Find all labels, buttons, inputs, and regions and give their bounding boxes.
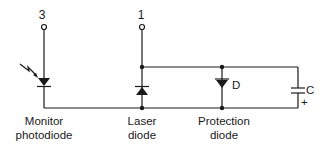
protection-diode-label-line1: Protection [198, 115, 250, 127]
laser-diode-label-line1: Laser [128, 115, 157, 127]
protection-diode: D [215, 65, 240, 110]
light-incident-arrow-icon [20, 64, 38, 78]
monitor-photodiode-label-line2: photodiode [16, 129, 73, 141]
monitor-photodiode-label-line1: Monitor [25, 115, 64, 127]
pin-3-label: 3 [39, 8, 46, 22]
protection-diode-symbol-label: D [232, 79, 240, 91]
monitor-photodiode [20, 30, 51, 108]
photodiode-triangle-icon [38, 78, 50, 86]
junction-dot [220, 106, 224, 110]
capacitor-polarity-label: + [301, 96, 308, 108]
protection-diode-triangle-icon [216, 80, 228, 88]
laser-diode-label-line2: diode [128, 129, 156, 141]
junction-dot [140, 106, 144, 110]
pin-3-terminal [42, 25, 47, 30]
laser-diode-triangle-icon [136, 87, 148, 95]
capacitor: C + [291, 67, 314, 108]
capacitor-symbol-label: C [306, 84, 314, 96]
pin-1-terminal [140, 25, 145, 30]
protection-diode-label-line2: diode [210, 129, 238, 141]
circuit-diagram: 3 1 D C [0, 0, 331, 147]
junction-dot [220, 65, 224, 69]
pin-1-label: 1 [138, 8, 145, 22]
laser-diode [135, 30, 149, 110]
